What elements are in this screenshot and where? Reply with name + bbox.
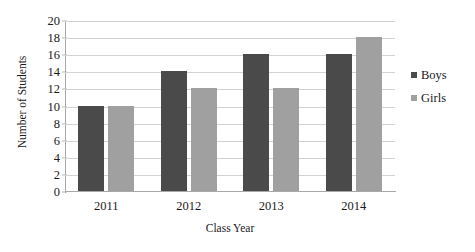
gridline: [65, 38, 395, 39]
x-axis-tick-labels: 2011201220132014: [65, 199, 395, 217]
legend-label: Boys: [421, 69, 447, 82]
y-axis-tick-label: 20: [24, 15, 60, 28]
bar-girls-2013: [273, 88, 299, 191]
legend-swatch-icon: [411, 95, 417, 101]
y-axis-tick-label: 10: [24, 100, 60, 113]
y-axis-tick-label: 6: [24, 134, 60, 147]
bar-boys-2011: [78, 106, 104, 192]
x-axis-line: [65, 191, 396, 192]
y-axis-tick-label: 18: [24, 32, 60, 45]
y-axis-tick-label: 16: [24, 49, 60, 62]
x-axis-tick-label: 2013: [259, 199, 284, 214]
x-axis-tick-label: 2014: [341, 199, 366, 214]
bar-boys-2014: [326, 54, 352, 191]
bar-boys-2012: [161, 71, 187, 191]
y-axis-tick-label: 14: [24, 66, 60, 79]
plot-area: [65, 21, 395, 192]
x-axis-tick-label: 2012: [176, 199, 201, 214]
legend-label: Girls: [421, 92, 446, 105]
bar-girls-2011: [108, 106, 134, 192]
bar-chart: Number of Students 02468101214161820 201…: [0, 0, 475, 252]
chart-legend: BoysGirls: [411, 69, 475, 114]
gridline: [65, 21, 395, 22]
y-axis-tick-label: 2: [24, 169, 60, 182]
x-axis-tick-label: 2011: [94, 199, 119, 214]
y-axis-tick-label: 0: [24, 186, 60, 199]
bar-girls-2014: [356, 37, 382, 191]
legend-item-boys[interactable]: Boys: [411, 69, 475, 82]
y-axis-tick-labels: 02468101214161820: [24, 21, 60, 192]
chart-title-strip: [0, 0, 475, 7]
bar-boys-2013: [243, 54, 269, 191]
x-axis-title: Class Year: [65, 222, 395, 234]
y-axis-tick-label: 4: [24, 152, 60, 165]
bar-girls-2012: [191, 88, 217, 191]
legend-swatch-icon: [411, 72, 417, 78]
legend-item-girls[interactable]: Girls: [411, 92, 475, 105]
y-axis-tick-label: 8: [24, 117, 60, 130]
y-axis-tick-label: 12: [24, 83, 60, 96]
